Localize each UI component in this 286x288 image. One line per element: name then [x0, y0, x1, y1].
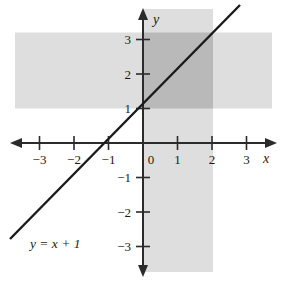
y-tick-label-2: 2 [125, 67, 132, 82]
x-axis-label: x [262, 151, 270, 166]
x-tick-label-2: 2 [209, 152, 216, 167]
x-tick-label-1: 1 [174, 152, 181, 167]
x-tick-label--1: −1 [102, 152, 116, 167]
x-tick-label-3: 3 [243, 152, 250, 167]
y-tick-label-3: 3 [125, 32, 132, 47]
y-tick-label--1: −1 [117, 170, 131, 185]
x-tick-label--3: −3 [33, 152, 47, 167]
graph-figure: −3 −2 −1 1 2 3 0 3 2 1 −1 −2 −3 y x y = … [0, 0, 286, 288]
equation-annotation: y = x + 1 [28, 236, 80, 251]
origin-label: 0 [148, 152, 155, 167]
y-axis-label: y [151, 12, 160, 27]
y-tick-label--3: −3 [117, 239, 131, 254]
y-tick-label-1: 1 [125, 101, 132, 116]
x-tick-label--2: −2 [67, 152, 81, 167]
coordinate-plane: −3 −2 −1 1 2 3 0 3 2 1 −1 −2 −3 y x y = … [0, 0, 286, 288]
y-tick-label--2: −2 [117, 205, 131, 220]
